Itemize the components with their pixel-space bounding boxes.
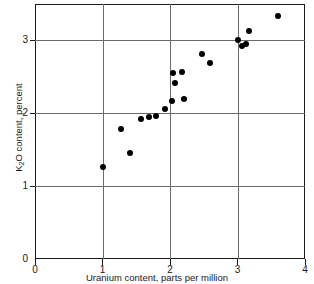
y-axis-label-prefix: K [13,165,24,171]
y-axis-label-subscript: 2 [18,161,25,165]
y-axis-tick [30,40,35,41]
data-point [162,106,168,112]
y-axis-tick-label: 3 [14,34,28,45]
x-axis-label: Uranium content, parts per million [0,272,314,283]
data-point [207,60,213,66]
data-point [127,150,133,156]
y-axis-label-suffix: O content, percent [13,83,24,161]
data-point [169,98,175,104]
y-axis-label: K2O content, percent [13,48,24,208]
gridline-vertical-wrap [35,4,305,259]
y-axis-tick [30,113,35,114]
y-axis-tick-label: 0 [14,253,28,264]
data-point [199,51,205,57]
data-point [153,113,159,119]
data-point [146,114,152,120]
data-point [246,28,252,34]
scatter-chart-figure: 012340123 Uranium content, parts per mil… [0,0,314,284]
data-point [100,164,106,170]
y-axis-tick [30,186,35,187]
